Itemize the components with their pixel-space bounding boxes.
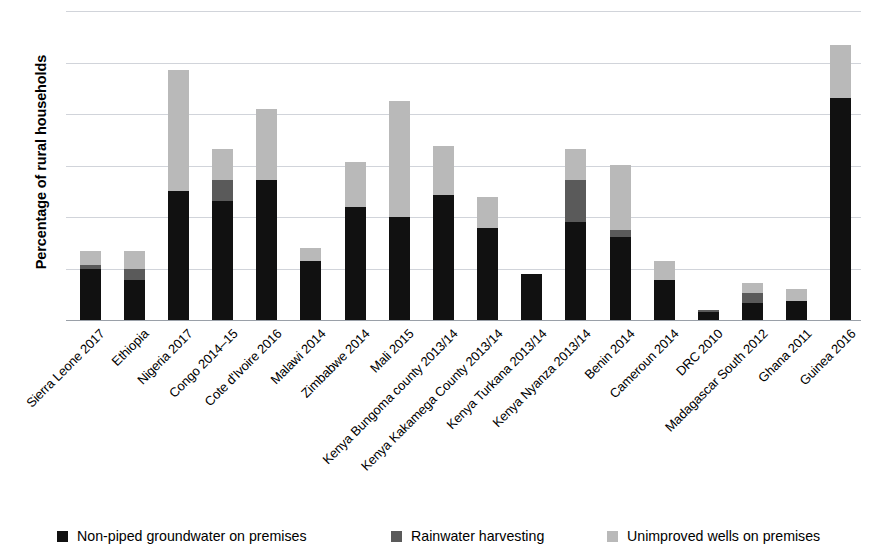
bar-group[interactable] [168,70,189,320]
bar-segment [433,146,454,195]
bar-segment [80,251,101,265]
bar-segment [742,293,763,302]
stacked-bar-chart: Percentage of rural households 051015202… [0,0,869,553]
y-axis-title: Percentage of rural households [33,17,49,307]
bar-group[interactable] [565,149,586,320]
x-axis-tick-label: Ethiopia [109,326,152,369]
bar-segment [345,162,366,206]
bar-group[interactable] [80,251,101,320]
bar-segment [565,180,586,222]
bar-segment [212,201,233,320]
bar-segment [168,70,189,192]
bar-segment [742,303,763,321]
bar-segment [786,289,807,301]
bar-group[interactable] [300,248,321,320]
chart-legend: Non-piped groundwater on premisesRainwat… [0,528,869,553]
bar-segment [654,280,675,320]
bar-segment [124,280,145,320]
bar-segment [256,180,277,320]
bar-group[interactable] [477,197,498,320]
legend-swatch-icon [57,531,68,542]
bar-segment [610,165,631,231]
bar-segment [345,207,366,320]
bar-group[interactable] [698,310,719,320]
bar-segment [256,109,277,180]
bar-segment [742,283,763,293]
legend-swatch-icon [607,531,618,542]
bar-segment [389,217,410,320]
bar-segment [830,45,851,98]
bar-segment [698,312,719,320]
legend-label: Unimproved wells on premises [627,528,820,544]
bar-segment [477,228,498,320]
bar-group[interactable] [124,251,145,320]
x-axis-tick-label: Cote d'Ivoire 2016 [201,326,284,409]
bar-segment [433,195,454,320]
bar-segment [654,261,675,280]
bar-segment [124,251,145,269]
bar-group[interactable] [742,283,763,320]
bar-segment [212,180,233,201]
bar-segment [300,261,321,320]
bar-segment [80,269,101,321]
bar-group[interactable] [654,261,675,320]
bar-segment [610,237,631,320]
bar-segment [212,149,233,180]
bar-group[interactable] [389,101,410,320]
bar-group[interactable] [786,289,807,320]
bar-segment [477,197,498,228]
bar-segment [389,101,410,217]
bar-segment [300,248,321,261]
legend-item[interactable]: Non-piped groundwater on premises [57,528,307,544]
bar-segment [124,269,145,280]
bar-segment [565,222,586,320]
x-axis-tick-labels: Sierra Leone 2017EthiopiaNigeria 2017Con… [66,320,861,510]
bar-group[interactable] [212,149,233,320]
bar-segment [521,274,542,320]
bar-segment [168,191,189,320]
bar-segment [786,301,807,320]
bar-group[interactable] [345,162,366,320]
legend-item[interactable]: Rainwater harvesting [391,528,544,544]
bar-segment [830,98,851,320]
bar-group[interactable] [521,274,542,320]
legend-label: Non-piped groundwater on premises [77,528,307,544]
legend-item[interactable]: Unimproved wells on premises [607,528,820,544]
plot-area: 051015202530 [66,11,861,320]
x-axis-tick-label: Sierra Leone 2017 [23,326,107,410]
bar-segment [565,149,586,180]
bar-group[interactable] [610,165,631,321]
legend-swatch-icon [391,531,402,542]
bar-series-container [66,11,861,320]
bar-group[interactable] [433,146,454,320]
bar-group[interactable] [256,109,277,320]
bar-group[interactable] [830,45,851,320]
legend-label: Rainwater harvesting [411,528,544,544]
